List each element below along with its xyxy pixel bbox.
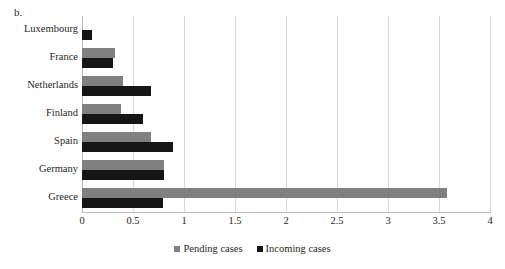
legend-label: Incoming cases (266, 243, 331, 254)
y-axis-label-germany: Germany (2, 163, 78, 174)
x-tick-4: 4 (487, 215, 492, 226)
bar-incoming (82, 198, 163, 208)
bar-pending (82, 76, 123, 86)
legend-item: Pending cases (174, 243, 242, 254)
bar-pending (82, 188, 447, 198)
x-axis-tick-labels: 00.511.522.533.54 (82, 215, 490, 231)
bar-group (82, 156, 490, 184)
bar-group (82, 44, 490, 72)
y-axis-label-greece: Greece (2, 191, 78, 202)
chart-legend: Pending casesIncoming cases (0, 243, 505, 254)
y-axis-label-france: France (2, 51, 78, 62)
bar-pending (82, 160, 164, 170)
x-tick-0: 0 (79, 215, 84, 226)
x-tick-2: 2 (283, 215, 288, 226)
legend-label: Pending cases (183, 243, 242, 254)
x-tick-1.5: 1.5 (228, 215, 241, 226)
bar-incoming (82, 114, 143, 124)
gridline-4 (490, 16, 491, 212)
bar-incoming (82, 170, 164, 180)
bar-incoming (82, 58, 113, 68)
bar-group (82, 184, 490, 212)
legend-swatch-icon (174, 246, 180, 252)
y-axis-label-finland: Finland (2, 107, 78, 118)
legend-item: Incoming cases (257, 243, 331, 254)
x-tick-3.5: 3.5 (432, 215, 445, 226)
x-axis-line (82, 212, 491, 213)
bar-incoming (82, 142, 173, 152)
x-tick-3: 3 (385, 215, 390, 226)
x-tick-1: 1 (181, 215, 186, 226)
bar-group (82, 72, 490, 100)
y-axis-label-spain: Spain (2, 135, 78, 146)
bar-group (82, 16, 490, 44)
bar-incoming (82, 86, 151, 96)
chart-figure: b. LuxembourgFranceNetherlandsFinlandSpa… (0, 0, 505, 269)
bar-pending (82, 104, 121, 114)
bar-group (82, 128, 490, 156)
bar-pending (82, 48, 115, 58)
x-tick-0.5: 0.5 (126, 215, 139, 226)
plot-area (82, 16, 490, 212)
y-axis-category-labels: LuxembourgFranceNetherlandsFinlandSpainG… (0, 16, 78, 212)
y-axis-label-luxembourg: Luxembourg (2, 23, 78, 34)
legend-swatch-icon (257, 246, 263, 252)
bar-incoming (82, 30, 92, 40)
x-tick-2.5: 2.5 (330, 215, 343, 226)
y-axis-label-netherlands: Netherlands (2, 79, 78, 90)
bar-group (82, 100, 490, 128)
bar-pending (82, 132, 151, 142)
